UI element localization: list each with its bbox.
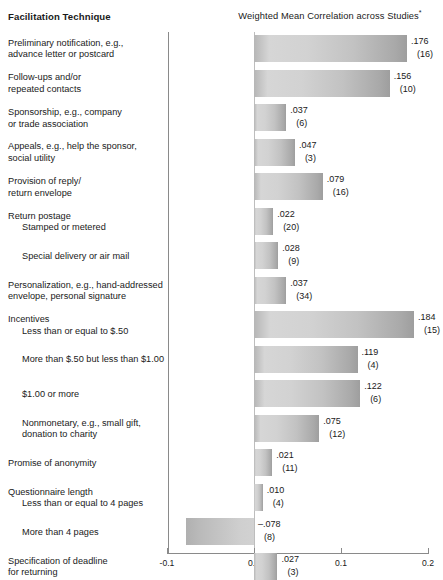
bar-value-label: .027 (281, 554, 299, 564)
bar-value-label: .028 (282, 243, 300, 253)
category-label-line: Preliminary notification, e.g., (8, 38, 166, 50)
category-label: $1.00 or more (22, 389, 172, 401)
category-label: More than 4 pages (22, 527, 172, 539)
category-label: Provision of reply/return envelope (8, 176, 166, 199)
bar (254, 277, 286, 304)
axis-tick-label: 0.1 (335, 558, 347, 568)
bar-value-label: .079 (327, 174, 345, 184)
bar-value-label: .075 (323, 416, 341, 426)
category-label: Follow-ups and/orrepeated contacts (8, 72, 166, 95)
footnote-marker: * (419, 9, 422, 16)
category-label: Specification of deadlinefor returning (8, 556, 166, 579)
bar-study-count-label: (4) (368, 360, 379, 370)
bar-study-count-label: (6) (296, 118, 307, 128)
axis-tick (428, 548, 429, 554)
bar-study-count-label: (6) (370, 394, 381, 404)
bar-value-label: –.078 (258, 519, 281, 529)
bar (254, 173, 323, 200)
bar (254, 70, 390, 97)
bar-study-count-label: (16) (417, 49, 433, 59)
category-label: More than $.50 but less than $1.00 (22, 354, 172, 366)
category-label-line: donation to charity (22, 429, 172, 441)
facilitation-technique-chart: Facilitation Technique Weighted Mean Cor… (0, 0, 443, 580)
bar-value-label: .010 (267, 485, 285, 495)
axis-tick-label: 0.0 (248, 558, 260, 568)
bar-study-count-label: (34) (296, 291, 312, 301)
bar-study-count-label: (4) (273, 498, 284, 508)
bar-study-count-label: (9) (288, 256, 299, 266)
category-label-line: Provision of reply/ (8, 176, 166, 188)
category-label-line: Less than or equal to 4 pages (8, 498, 166, 510)
category-label-line: Specification of deadline (8, 556, 166, 568)
category-label-line: More than $.50 but less than $1.00 (22, 354, 172, 366)
bar-study-count-label: (8) (264, 532, 275, 542)
category-label-line: Nonmonetary, e.g., small gift, (22, 418, 172, 430)
category-group-heading: Return postage (8, 211, 166, 223)
axis-left-spine (168, 32, 169, 553)
category-label-line: for returning (8, 567, 166, 579)
category-label-line: Personalization, e.g., hand-addressed (8, 280, 166, 292)
axis-tick (167, 548, 168, 554)
category-label-line: envelope, personal signature (8, 291, 166, 303)
bar (254, 449, 272, 476)
bar-value-label: .119 (362, 347, 379, 357)
category-label-line: More than 4 pages (22, 527, 172, 539)
category-label: Questionnaire lengthLess than or equal t… (8, 487, 166, 510)
category-group-heading: Questionnaire length (8, 487, 166, 499)
bar-study-count-label: (3) (287, 567, 298, 577)
category-label-line: repeated contacts (8, 84, 166, 96)
bar-study-count-label: (10) (400, 84, 416, 94)
bar-study-count-label: (20) (283, 222, 299, 232)
category-label-line: or trade association (8, 119, 166, 131)
category-label-line: Less than or equal to $.50 (8, 326, 166, 338)
category-label-line: Stamped or metered (8, 222, 166, 234)
bar-value-label: .176 (411, 36, 429, 46)
bar (254, 104, 286, 131)
category-label: Appeals, e.g., help the sponsor,social u… (8, 141, 166, 164)
axis-tick (254, 548, 255, 554)
bar-value-label: .122 (364, 381, 382, 391)
bar-value-label: .156 (394, 71, 412, 81)
category-label: Preliminary notification, e.g.,advance l… (8, 38, 166, 61)
bar (254, 553, 277, 580)
category-label-line: $1.00 or more (22, 389, 172, 401)
category-label-line: Sponsorship, e.g., company (8, 107, 166, 119)
category-label: Return postageStamped or metered (8, 211, 166, 234)
category-label: IncentivesLess than or equal to $.50 (8, 314, 166, 337)
bar-study-count-label: (12) (329, 429, 345, 439)
bar (254, 139, 295, 166)
bar (254, 208, 273, 235)
axis-bottom-spine (168, 553, 429, 554)
bar (254, 380, 360, 407)
axis-tick (341, 548, 342, 554)
column-header-weighted-mean-correlation: Weighted Mean Correlation across Studies… (238, 9, 421, 21)
bar-value-label: .021 (276, 450, 294, 460)
column-header-facilitation-technique: Facilitation Technique (8, 11, 111, 22)
category-group-heading: Incentives (8, 314, 166, 326)
bar (254, 346, 358, 373)
bar-value-label: .047 (299, 140, 317, 150)
column-header-text: Weighted Mean Correlation across Studies (238, 11, 419, 21)
bar-study-count-label: (11) (282, 463, 297, 473)
bar-study-count-label: (16) (333, 187, 349, 197)
bar (254, 242, 278, 269)
bar-value-label: .037 (290, 278, 308, 288)
bar (254, 415, 319, 442)
category-label: Personalization, e.g., hand-addressedenv… (8, 280, 166, 303)
bar-value-label: .022 (277, 209, 295, 219)
category-label: Nonmonetary, e.g., small gift,donation t… (22, 418, 172, 441)
bar-value-label: .037 (290, 105, 308, 115)
category-label-line: Follow-ups and/or (8, 72, 166, 84)
category-label-line: Special delivery or air mail (22, 251, 172, 263)
bar (254, 311, 414, 338)
category-label-line: advance letter or postcard (8, 49, 166, 61)
category-label-line: social utility (8, 153, 166, 165)
bar (186, 518, 254, 545)
bar (254, 35, 407, 62)
category-label-line: return envelope (8, 188, 166, 200)
category-label: Sponsorship, e.g., companyor trade assoc… (8, 107, 166, 130)
bar (254, 484, 263, 511)
category-label-line: Appeals, e.g., help the sponsor, (8, 141, 166, 153)
category-label: Special delivery or air mail (22, 251, 172, 263)
bar-value-label: .184 (418, 312, 436, 322)
